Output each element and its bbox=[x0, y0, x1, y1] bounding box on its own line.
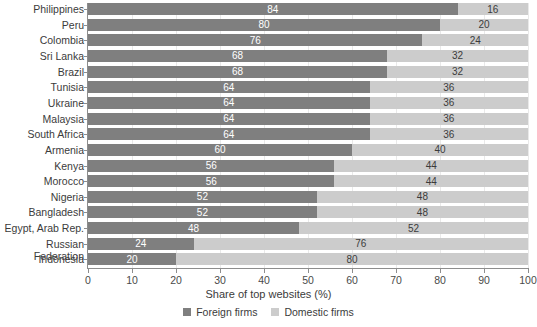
x-axis-tick-label: 100 bbox=[519, 274, 537, 286]
bar-row: Kenya5644 bbox=[88, 160, 528, 172]
bar-segment-domestic: 32 bbox=[387, 66, 528, 78]
bar-segment-foreign: 64 bbox=[88, 128, 370, 140]
x-axis-tick bbox=[484, 268, 485, 273]
stacked-bar-chart: Philippines8416Peru8020Colombia7624Sri L… bbox=[0, 0, 537, 327]
bar-row: Philippines8416 bbox=[88, 3, 528, 15]
legend-swatch-icon bbox=[183, 308, 191, 316]
chart-legend: Foreign firmsDomestic firms bbox=[0, 306, 537, 318]
x-axis-tick-label: 30 bbox=[214, 274, 226, 286]
bar-row: Malaysia6436 bbox=[88, 113, 528, 125]
legend-item: Domestic firms bbox=[271, 306, 353, 318]
x-axis-tick bbox=[440, 268, 441, 273]
bar-segment-domestic: 48 bbox=[317, 206, 528, 218]
bar-segment-domestic: 44 bbox=[334, 175, 528, 187]
x-axis-tick bbox=[132, 268, 133, 273]
category-label: Sri Lanka bbox=[0, 50, 84, 62]
bar-row: Armenia6040 bbox=[88, 144, 528, 156]
category-label: Egypt, Arab Rep. bbox=[0, 222, 84, 234]
x-axis-tick-label: 40 bbox=[258, 274, 270, 286]
category-label: Malaysia bbox=[0, 113, 84, 125]
bar-segment-domestic: 16 bbox=[458, 3, 528, 15]
legend-label: Domestic firms bbox=[284, 306, 353, 318]
bar-segment-domestic: 52 bbox=[299, 222, 528, 234]
category-label: Bangladesh bbox=[0, 206, 84, 218]
category-label: Brazil bbox=[0, 66, 84, 78]
legend-label: Foreign firms bbox=[196, 306, 257, 318]
bar-segment-foreign: 24 bbox=[88, 238, 194, 250]
bar-segment-foreign: 52 bbox=[88, 191, 317, 203]
bar-row: Morocco5644 bbox=[88, 175, 528, 187]
bar-row: Sri Lanka6832 bbox=[88, 50, 528, 62]
bar-row: Ukraine6436 bbox=[88, 97, 528, 109]
bar-segment-foreign: 20 bbox=[88, 253, 176, 265]
bar-segment-domestic: 36 bbox=[370, 97, 528, 109]
bar-segment-foreign: 68 bbox=[88, 66, 387, 78]
x-axis-tick bbox=[88, 268, 89, 273]
x-axis-tick bbox=[352, 268, 353, 273]
bar-segment-domestic: 36 bbox=[370, 128, 528, 140]
bar-segment-domestic: 36 bbox=[370, 81, 528, 93]
bar-segment-domestic: 20 bbox=[440, 19, 528, 31]
category-label: Indonesia bbox=[0, 253, 84, 265]
category-label: Tunisia bbox=[0, 81, 84, 93]
category-label: South Africa bbox=[0, 128, 84, 140]
bar-segment-foreign: 64 bbox=[88, 113, 370, 125]
x-axis-tick bbox=[220, 268, 221, 273]
category-label: Philippines bbox=[0, 3, 84, 15]
category-label: Nigeria bbox=[0, 191, 84, 203]
x-axis-tick bbox=[176, 268, 177, 273]
bar-segment-domestic: 32 bbox=[387, 50, 528, 62]
bar-segment-foreign: 68 bbox=[88, 50, 387, 62]
plot-area: Philippines8416Peru8020Colombia7624Sri L… bbox=[88, 3, 528, 268]
bar-row: Bangladesh5248 bbox=[88, 206, 528, 218]
bar-row: South Africa6436 bbox=[88, 128, 528, 140]
category-label: Morocco bbox=[0, 175, 84, 187]
x-axis-tick bbox=[528, 268, 529, 273]
category-label: Kenya bbox=[0, 160, 84, 172]
bar-row: Brazil6832 bbox=[88, 66, 528, 78]
bar-segment-foreign: 56 bbox=[88, 175, 334, 187]
x-axis-tick bbox=[308, 268, 309, 273]
x-axis-tick bbox=[264, 268, 265, 273]
x-axis-tick-label: 20 bbox=[170, 274, 182, 286]
bar-segment-domestic: 48 bbox=[317, 191, 528, 203]
bar-row: Russian Federation2476 bbox=[88, 238, 528, 250]
legend-item: Foreign firms bbox=[183, 306, 257, 318]
x-axis-tick-label: 60 bbox=[346, 274, 358, 286]
x-axis-tick-label: 90 bbox=[478, 274, 490, 286]
category-label: Colombia bbox=[0, 34, 84, 46]
x-axis-tick-label: 10 bbox=[126, 274, 138, 286]
x-axis-tick bbox=[396, 268, 397, 273]
bar-segment-foreign: 80 bbox=[88, 19, 440, 31]
category-label: Russian Federation bbox=[0, 238, 84, 250]
bar-segment-domestic: 36 bbox=[370, 113, 528, 125]
x-axis-tick-label: 50 bbox=[302, 274, 314, 286]
bar-row: Tunisia6436 bbox=[88, 81, 528, 93]
bar-row: Nigeria5248 bbox=[88, 191, 528, 203]
bar-segment-foreign: 52 bbox=[88, 206, 317, 218]
bar-segment-foreign: 64 bbox=[88, 97, 370, 109]
bar-row: Colombia7624 bbox=[88, 34, 528, 46]
bar-segment-domestic: 76 bbox=[194, 238, 528, 250]
bar-segment-foreign: 56 bbox=[88, 160, 334, 172]
bar-row: Egypt, Arab Rep.4852 bbox=[88, 222, 528, 234]
x-axis-tick-label: 0 bbox=[85, 274, 91, 286]
bar-segment-domestic: 40 bbox=[352, 144, 528, 156]
x-axis-tick-label: 80 bbox=[434, 274, 446, 286]
category-label: Armenia bbox=[0, 144, 84, 156]
category-label: Ukraine bbox=[0, 97, 84, 109]
bar-row: Peru8020 bbox=[88, 19, 528, 31]
bar-row: Indonesia2080 bbox=[88, 253, 528, 265]
bar-segment-domestic: 80 bbox=[176, 253, 528, 265]
bar-segment-foreign: 48 bbox=[88, 222, 299, 234]
category-label: Peru bbox=[0, 19, 84, 31]
bar-segment-foreign: 76 bbox=[88, 34, 422, 46]
bar-segment-foreign: 60 bbox=[88, 144, 352, 156]
x-axis-tick-label: 70 bbox=[390, 274, 402, 286]
bar-segment-domestic: 44 bbox=[334, 160, 528, 172]
x-axis-title: Share of top websites (%) bbox=[0, 288, 537, 300]
bar-segment-domestic: 24 bbox=[422, 34, 528, 46]
bar-segment-foreign: 64 bbox=[88, 81, 370, 93]
legend-swatch-icon bbox=[271, 308, 279, 316]
gridline bbox=[528, 3, 529, 268]
